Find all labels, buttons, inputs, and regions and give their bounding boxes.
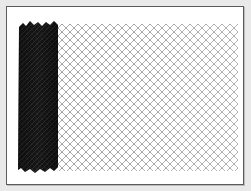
product-photo-frame [6,6,244,185]
mesh-pattern-icon [58,24,238,171]
rolled-fence-icon [17,19,59,174]
chain-link-mesh [58,24,238,171]
fence-roll [17,19,59,174]
